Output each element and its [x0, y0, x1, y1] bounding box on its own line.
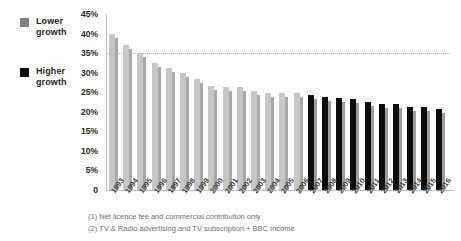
bar-fill-1999 [194, 79, 200, 190]
footnote-2: (2) TV & Radio advertising and TV subscr… [88, 223, 448, 235]
bar-2010 [348, 14, 362, 190]
y-axis-tick-30: 30% [81, 68, 98, 78]
bar-2014 [405, 14, 419, 190]
bar-edge-1994 [129, 49, 132, 190]
footnote-1: (1) Net licence fee and commercial contr… [88, 211, 448, 223]
bar-fill-2010 [350, 99, 356, 190]
bar-edge-2001 [229, 91, 232, 190]
bar-1993 [107, 14, 121, 190]
bar-series-container [107, 14, 455, 190]
bar-fill-1994 [123, 45, 129, 190]
bar-fill-1995 [137, 53, 143, 190]
y-axis-tick-10: 10% [81, 146, 98, 156]
bar-fill-1993 [109, 34, 115, 190]
bar-2004 [263, 14, 277, 190]
y-axis-tick-45: 45% [81, 9, 98, 19]
legend-swatch-higher-growth [20, 68, 29, 77]
bar-fill-1996 [152, 63, 158, 191]
bar-fill-2015 [421, 107, 427, 190]
bar-edge-1999 [200, 83, 203, 190]
bar-2000 [206, 14, 220, 190]
legend-label-lower-growth-line1: Lower [36, 16, 63, 26]
legend-label-lower-growth: Lower growth [36, 16, 67, 38]
legend-swatch-lower-growth [20, 18, 29, 27]
legend-label-higher-growth: Higher growth [36, 66, 67, 88]
bar-edge-1998 [186, 77, 189, 190]
bar-1999 [192, 14, 206, 190]
bar-2012 [377, 14, 391, 190]
legend-label-lower-growth-line2: growth [36, 27, 67, 37]
bar-fill-2008 [322, 97, 328, 190]
bar-fill-2016 [436, 109, 442, 190]
bar-chart: 05%10%15%20%25%30%35%40%45% [70, 14, 455, 194]
y-axis-tick-15: 15% [81, 126, 98, 136]
bar-fill-2001 [223, 87, 229, 190]
bar-2015 [419, 14, 433, 190]
bar-fill-2012 [379, 104, 385, 190]
y-axis-tick-0: 0 [93, 185, 98, 195]
bar-1995 [135, 14, 149, 190]
bar-fill-2005 [279, 93, 285, 190]
y-axis-tick-20: 20% [81, 107, 98, 117]
bar-1996 [150, 14, 164, 190]
bar-2007 [306, 14, 320, 190]
y-axis-tick-5: 5% [86, 165, 98, 175]
bar-edge-1993 [115, 38, 118, 190]
bar-fill-2002 [237, 87, 243, 190]
footnotes: (1) Net licence fee and commercial contr… [88, 211, 448, 235]
bar-2006 [292, 14, 306, 190]
bar-fill-2000 [208, 86, 214, 190]
bar-2005 [277, 14, 291, 190]
bar-2003 [249, 14, 263, 190]
bar-fill-1997 [166, 68, 172, 190]
bar-fill-1998 [180, 73, 186, 190]
bar-edge-1996 [158, 67, 161, 191]
bar-edge-1995 [143, 57, 146, 190]
bar-2008 [320, 14, 334, 190]
bar-fill-2004 [265, 93, 271, 190]
bar-2013 [391, 14, 405, 190]
y-axis-tick-40: 40% [81, 29, 98, 39]
bar-edge-1997 [172, 72, 175, 190]
bar-2002 [235, 14, 249, 190]
bar-1994 [121, 14, 135, 190]
bar-fill-2006 [294, 93, 300, 190]
y-axis-tick-25: 25% [81, 87, 98, 97]
bar-fill-2013 [393, 104, 399, 190]
bar-2016 [434, 14, 448, 190]
bar-1997 [164, 14, 178, 190]
legend-label-higher-growth-line1: Higher [36, 66, 65, 76]
bar-2001 [221, 14, 235, 190]
y-axis-tick-35: 35% [81, 48, 98, 58]
bar-fill-2003 [251, 91, 257, 190]
bar-fill-2011 [365, 102, 371, 190]
bar-fill-2009 [336, 98, 342, 190]
legend-label-higher-growth-line2: growth [36, 77, 67, 87]
y-axis: 05%10%15%20%25%30%35%40%45% [70, 14, 102, 190]
bar-fill-2014 [407, 107, 413, 190]
bar-2009 [334, 14, 348, 190]
bar-fill-2007 [308, 95, 314, 190]
bar-edge-2002 [243, 91, 246, 190]
bar-2011 [363, 14, 377, 190]
bar-1998 [178, 14, 192, 190]
